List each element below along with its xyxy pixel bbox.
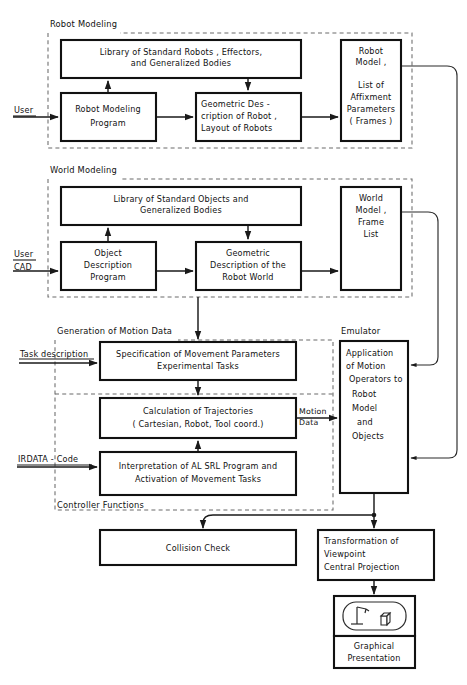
junction-dot-emulator-output [372,513,377,518]
group-emulator: Emulator [341,326,381,336]
group-controller-functions: Controller Functions [57,500,144,510]
robot-model-line-2: Model , [356,57,387,67]
input-irdata-code: IRDATA - Code [17,454,97,467]
geometric-description-robot-line-2: cription of Robot , [201,111,277,121]
emulator-application-line-3: Operators to [349,374,403,384]
emulator-application-line-2: of Motion [346,361,386,371]
box-robot-model: Robot Model , List of Affixment Paramete… [341,40,401,141]
transformation-viewpoint-line-1: Transformation of [323,536,399,546]
calculation-trajectories-line-2: ( Cartesian, Robot, Tool coord.) [132,419,263,429]
input-label-task-description: Task description [19,349,88,359]
box-interpretation-al-srl: Interpretation of AL SRL Program and Act… [100,452,296,495]
box-library-standard-objects: Library of Standard Objects and Generali… [61,187,301,225]
group-label-robot-modeling: Robot Modeling [50,19,117,29]
interpretation-al-srl-line-1: Interpretation of AL SRL Program and [119,461,277,471]
edge-motion-data: Motion Data [297,407,337,427]
geometric-description-world-line-1: Geometric [226,248,270,258]
box-library-standard-robots: Library of Standard Robots , Effectors, … [61,40,301,78]
geometric-description-robot-line-1: Geometric Des - [201,99,270,109]
transformation-viewpoint-line-3: Central Projection [324,562,400,572]
box-calculation-trajectories: Calculation of Trajectories ( Cartesian,… [100,398,296,438]
emulator-application-line-1: Application [346,348,393,358]
robot-modeling-program-line-1: Robot Modeling [75,104,141,114]
group-label-generation-motion-data: Generation of Motion Data [57,326,172,336]
edge-label-motion-data-line-2: Data [299,418,318,427]
box-geometric-description-robot: Geometric Des - cription of Robot , Layo… [196,93,301,141]
diagram-root: Robot Modeling Library of Standard Robot… [0,0,467,685]
robot-modeling-program-line-2: Program [90,118,126,128]
robot-model-line-1: Robot [359,46,383,56]
input-task-description: Task description [19,349,97,363]
box-specification-movement-parameters: Specification of Movement Parameters Exp… [100,342,296,380]
geometric-description-robot-line-3: Layout of Robots [201,123,272,133]
input-user-cad: User CAD [13,249,58,272]
feedback-robot-model-to-emulator [402,66,457,458]
box-world-model: World Model , Frame List [341,187,401,290]
calculation-trajectories-rect [100,398,296,438]
graphical-presentation-line-1: Graphical [354,641,395,651]
group-label-emulator: Emulator [341,326,381,336]
robot-model-line-5: Affixment [351,92,392,102]
collision-check-line-1: Collision Check [166,543,230,553]
library-robots-line-2: and Generalized Bodies [131,58,231,68]
box-collision-check: Collision Check [100,530,296,565]
emulator-application-line-6: and [357,417,373,427]
object-description-program-line-2: Description [84,260,132,270]
object-description-program-line-3: Program [90,272,126,282]
robot-model-line-4: List of [358,80,384,90]
graphical-presentation-line-2: Presentation [347,653,400,663]
robot-model-line-6: Parameters [347,104,395,114]
group-label-world-modeling: World Modeling [50,165,117,175]
object-cube-side-icon [387,613,390,625]
system-block-diagram: Robot Modeling Library of Standard Robot… [0,0,467,685]
library-objects-line-1: Library of Standard Objects and [113,194,248,204]
interpretation-al-srl-line-2: Activation of Movement Tasks [135,474,261,484]
box-graphical-presentation: Graphical Presentation [334,596,415,668]
object-description-program-line-1: Object [94,248,122,258]
robot-modeling-program-rect [61,93,156,141]
edge-label-motion-data-line-1: Motion [299,407,327,416]
transformation-viewpoint-line-2: Viewpoint [324,549,366,559]
calculation-trajectories-line-1: Calculation of Trajectories [143,406,253,416]
world-model-line-4: List [364,229,379,239]
specification-movement-line-2: Experimental Tasks [157,361,239,371]
box-robot-modeling-program: Robot Modeling Program [61,93,156,141]
world-model-line-2: Model , [356,205,387,215]
world-model-line-1: World [359,193,383,203]
group-label-controller-functions: Controller Functions [57,500,144,510]
specification-movement-line-1: Specification of Movement Parameters [116,349,280,359]
world-model-line-3: Frame [358,217,384,227]
library-robots-line-1: Library of Standard Robots , Effectors, [100,47,262,57]
input-label-user-cad-line-1: User [14,249,34,259]
input-user-robot-modeling: User [13,105,58,117]
geometric-description-world-line-2: Description of the [210,260,286,270]
library-objects-line-2: Generalized Bodies [140,205,222,215]
box-geometric-description-world: Geometric Description of the Robot World [196,242,301,290]
box-emulator-application: Application of Motion Operators to Robot… [340,341,408,493]
arrow-emulator-to-collision-check [203,515,374,528]
robot-model-line-7: ( Frames ) [350,116,393,126]
emulator-application-line-7: Objects [352,431,384,441]
input-label-user-robot: User [14,105,34,115]
box-transformation-viewpoint: Transformation of Viewpoint Central Proj… [318,530,434,580]
box-object-description-program: Object Description Program [61,242,156,290]
emulator-application-line-5: Model [352,403,377,413]
emulator-application-line-4: Robot [352,389,376,399]
object-cube-front-icon [381,616,387,625]
emulator-output-routing [203,494,376,528]
input-label-irdata-code: IRDATA - Code [18,454,78,464]
geometric-description-world-line-3: Robot World [222,272,273,282]
